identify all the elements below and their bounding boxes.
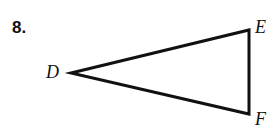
diagram-page: 8. D E F bbox=[0, 0, 275, 133]
triangle-def-figure bbox=[0, 0, 275, 133]
vertex-label-d: D bbox=[46, 63, 59, 81]
vertex-label-f: F bbox=[255, 110, 266, 128]
vertex-label-e: E bbox=[255, 18, 266, 36]
triangle-outline bbox=[71, 30, 249, 114]
